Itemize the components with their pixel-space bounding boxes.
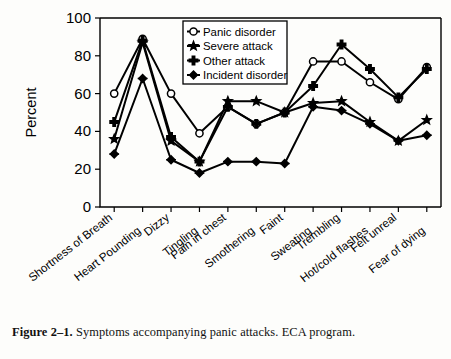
data-point-3-8 bbox=[337, 107, 347, 115]
legend-label: Severe attack bbox=[203, 40, 273, 52]
data-point-2-0 bbox=[110, 118, 118, 126]
y-tick-label: 0 bbox=[83, 198, 91, 215]
legend-label: Other attack bbox=[203, 55, 265, 67]
legend-marker-0 bbox=[190, 28, 197, 35]
y-tick-label: 100 bbox=[66, 9, 91, 26]
chart-figure: 020406080100 Percent Shortness of Breath… bbox=[0, 0, 451, 318]
x-category-label: Faint bbox=[257, 210, 286, 237]
series-line-3 bbox=[114, 78, 427, 172]
x-category-label: Shortness of Breath bbox=[26, 210, 115, 283]
data-point-3-6 bbox=[280, 160, 290, 168]
legend-label: Panic disorder bbox=[203, 26, 276, 38]
y-axis-title: Percent bbox=[23, 88, 39, 138]
legend-label: Incident disorder bbox=[203, 69, 287, 81]
y-tick-label: 20 bbox=[74, 160, 91, 177]
y-tick-label: 60 bbox=[74, 85, 91, 102]
data-point-3-2 bbox=[166, 156, 176, 164]
data-point-0-7 bbox=[310, 58, 317, 65]
figure-caption: Figure 2–1. Symptoms accompanying panic … bbox=[12, 325, 442, 340]
data-point-3-11 bbox=[422, 131, 432, 139]
caption-text: Symptoms accompanying panic attacks. ECA… bbox=[76, 325, 355, 339]
chart-legend: Panic disorderSevere attackOther attackI… bbox=[183, 21, 287, 84]
y-axis-title-text: Percent bbox=[23, 88, 39, 138]
line-chart: 020406080100 Percent Shortness of Breath… bbox=[0, 0, 451, 318]
x-category-label: Dizzy bbox=[141, 210, 171, 238]
y-tick-label: 40 bbox=[74, 122, 91, 139]
data-point-0-8 bbox=[338, 58, 345, 65]
data-point-3-1 bbox=[138, 75, 148, 83]
legend-item-3: Incident disorder bbox=[187, 69, 287, 81]
data-point-1-5 bbox=[252, 97, 260, 105]
data-point-1-0 bbox=[110, 135, 118, 143]
data-point-1-11 bbox=[423, 116, 431, 124]
data-point-3-3 bbox=[195, 169, 205, 177]
data-point-0-0 bbox=[111, 90, 118, 97]
y-tick-label: 80 bbox=[74, 47, 91, 64]
data-point-0-3 bbox=[196, 130, 203, 137]
data-point-1-8 bbox=[337, 97, 345, 105]
data-point-3-0 bbox=[109, 150, 119, 158]
data-point-0-2 bbox=[167, 90, 174, 97]
data-point-3-5 bbox=[251, 158, 261, 166]
figure-page: 020406080100 Percent Shortness of Breath… bbox=[0, 0, 451, 359]
y-tick-labels: 020406080100 bbox=[66, 9, 91, 215]
x-category-labels: Shortness of BreathHeart PoundingDizzyTi… bbox=[26, 210, 427, 285]
data-point-0-9 bbox=[366, 79, 373, 86]
data-point-3-4 bbox=[223, 158, 233, 166]
figure-number: Figure 2–1. bbox=[12, 325, 73, 339]
